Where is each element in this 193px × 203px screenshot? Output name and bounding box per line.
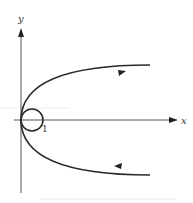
- y-axis: [18, 28, 24, 193]
- circle-label: 1: [42, 124, 48, 134]
- phase-diagram: y x 1: [0, 0, 193, 203]
- x-axis-label: x: [181, 115, 187, 126]
- arrow-left-icon: [114, 163, 122, 169]
- arrow-right-icon: [118, 70, 126, 76]
- x-axis: [14, 117, 178, 123]
- y-axis-label: y: [17, 13, 24, 24]
- y-axis-arrow-icon: [18, 28, 24, 37]
- x-axis-arrow-icon: [169, 117, 178, 123]
